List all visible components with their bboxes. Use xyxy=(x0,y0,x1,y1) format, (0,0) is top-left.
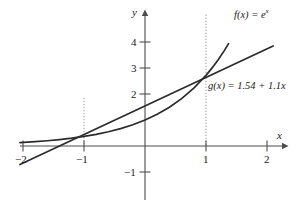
series-f-annotation-base: f(x) = e xyxy=(234,9,266,20)
x-tick-label-neg1: −1 xyxy=(76,154,88,165)
exponential-function-graph-figure: y x −2 −1 1 2 4 3 2 −1 f(x) = ex g(x) = … xyxy=(0,0,303,210)
x-axis-label: x xyxy=(277,130,282,141)
series-g-line xyxy=(20,46,273,165)
y-tick-label-2: 2 xyxy=(131,89,137,100)
series-f-annotation-exponent: x xyxy=(266,7,269,15)
series-g-annotation: g(x) = 1.54 + 1.1x xyxy=(208,81,286,92)
x-tick-label-2: 2 xyxy=(264,154,270,165)
x-tick-label-neg2: −2 xyxy=(15,154,27,165)
y-axis-label: y xyxy=(132,7,137,18)
y-tick-label-neg1: −1 xyxy=(124,167,136,178)
series-f-annotation: f(x) = ex xyxy=(234,8,269,20)
y-tick-label-4: 4 xyxy=(131,37,137,48)
x-tick-label-1: 1 xyxy=(203,154,209,165)
y-tick-label-3: 3 xyxy=(131,63,137,74)
plot-canvas xyxy=(0,0,303,210)
series-f-curve xyxy=(20,44,229,143)
